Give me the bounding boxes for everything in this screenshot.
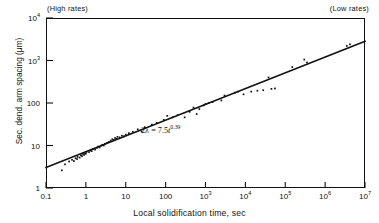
- chart-figure: (High rates) (Low rates) 0.1110100103104…: [0, 0, 379, 223]
- x-tick-label: 106: [319, 192, 331, 201]
- equation-annotation: 2λ = 7.5t0.39: [141, 126, 180, 135]
- x-tick-label: 105: [279, 192, 291, 201]
- x-tick-label: 104: [239, 192, 251, 201]
- y-tick-label: 1: [14, 184, 40, 193]
- equation-equals: =: [151, 126, 156, 135]
- high-rates-annotation: (High rates): [47, 4, 88, 13]
- plot-area: [46, 18, 365, 188]
- x-tick-label: 10: [121, 192, 130, 201]
- x-tick-label: 107: [359, 192, 371, 201]
- y-axis-title: Sec. dend. arm spacing (μm): [14, 16, 24, 166]
- x-tick-label: 0.1: [40, 192, 51, 201]
- equation-exponent: 0.39: [170, 124, 180, 130]
- equation-lhs: 2λ: [141, 126, 149, 135]
- equation-coefficient: 7.5: [158, 126, 168, 135]
- low-rates-annotation: (Low rates): [330, 4, 369, 13]
- x-tick-label: 103: [199, 192, 211, 201]
- x-tick-label: 100: [159, 192, 172, 201]
- x-tick-label: 1: [84, 192, 88, 201]
- x-axis-title: Local solidification time, sec: [0, 208, 379, 218]
